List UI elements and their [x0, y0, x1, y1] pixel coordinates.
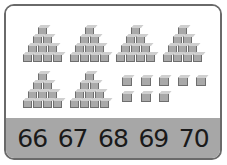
cube — [70, 100, 79, 108]
cube-field — [6, 6, 220, 121]
answer-option-69[interactable]: 69 — [138, 124, 168, 153]
answer-option-67[interactable]: 67 — [58, 124, 88, 153]
cube — [90, 100, 99, 108]
cube — [90, 54, 99, 62]
cube — [53, 100, 62, 108]
cube — [116, 54, 125, 62]
cube — [136, 54, 145, 62]
cube — [23, 100, 32, 108]
cube — [23, 54, 32, 62]
single-cube — [159, 93, 169, 102]
cube — [43, 54, 52, 62]
cube — [193, 54, 202, 62]
single-cube — [141, 77, 151, 86]
answer-option-70[interactable]: 70 — [179, 124, 209, 153]
cube — [183, 54, 192, 62]
cube — [33, 100, 42, 108]
answer-option-68[interactable]: 68 — [98, 124, 128, 153]
single-cube — [141, 93, 151, 102]
single-cube — [196, 77, 206, 86]
counting-card: 66 67 68 69 70 — [4, 4, 222, 160]
cube — [80, 54, 89, 62]
cube — [100, 100, 109, 108]
cube — [70, 54, 79, 62]
answer-option-66[interactable]: 66 — [17, 124, 47, 153]
cube — [33, 54, 42, 62]
single-cube — [159, 77, 169, 86]
cube — [126, 54, 135, 62]
cube — [100, 54, 109, 62]
answer-options-bar: 66 67 68 69 70 — [6, 118, 220, 158]
cube — [163, 54, 172, 62]
single-cube — [122, 93, 132, 102]
cube — [53, 54, 62, 62]
cube — [80, 100, 89, 108]
single-cube — [178, 77, 188, 86]
cube — [173, 54, 182, 62]
cube — [43, 100, 52, 108]
single-cube — [122, 77, 132, 86]
cube — [146, 54, 155, 62]
